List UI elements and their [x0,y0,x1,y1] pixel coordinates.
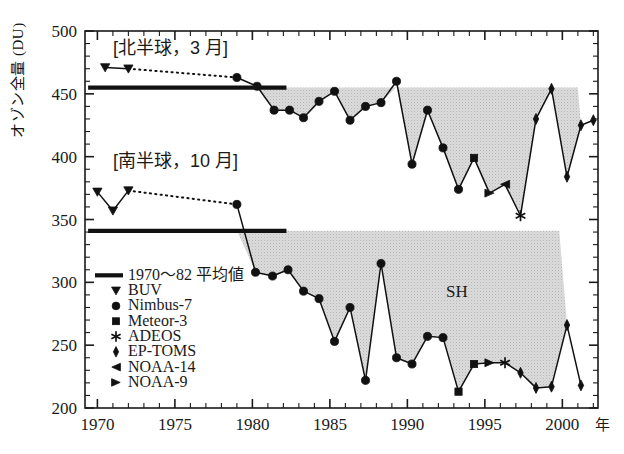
data-point [330,337,338,345]
legend-marker-star-icon [111,331,120,342]
legend-marker-diamond-icon [113,347,118,358]
y-tick-label: 300 [52,273,78,292]
data-point [408,360,416,368]
data-point [330,87,338,95]
data-point [454,185,462,193]
data-point [377,99,385,107]
x-tick-label: 1975 [158,415,192,434]
data-point [392,77,400,85]
data-point [315,97,323,105]
chart-canvas: 200250300350400450500 197019751980198519… [0,0,624,454]
data-point [470,360,477,367]
data-point [299,114,307,122]
data-point [439,334,447,342]
legend-item-noaa-9: NOAA-9 [112,373,188,390]
annotation-nh-title: [北半球，3 月] [113,38,228,58]
data-point [408,160,416,168]
data-point [299,287,307,295]
legend-item-197082: 1970〜82 平均値 [95,266,244,283]
legend-marker-square-icon [113,318,120,325]
legend-label: NOAA-9 [128,373,188,390]
data-point [361,102,369,110]
y-tick-label: 200 [52,399,78,418]
data-point [270,106,278,114]
legend-marker-triangle-left-icon [112,363,121,371]
x-axis-title: 年 [595,416,610,433]
data-point [233,200,241,208]
series-gap-connector [128,191,236,205]
data-point [233,73,241,81]
data-point [284,266,292,274]
legend-marker-triangle-right-icon [112,379,121,387]
legend-marker-triangle-down-icon [112,287,121,295]
y-tick-label: 400 [52,148,78,167]
x-tick-label: 1970 [80,415,114,434]
x-tick-label: 1990 [390,415,424,434]
data-point [346,303,354,311]
data-point [470,154,477,161]
x-tick-label: 1980 [235,415,269,434]
data-point [455,388,462,395]
y-tick-label: 450 [52,85,78,104]
series-gap-connector [128,69,236,78]
ozone-total-column-chart: オゾン全量 (DU) 200250300350400450500 1970197… [0,0,624,454]
y-tick-label: 500 [52,22,78,41]
x-tick-label: 2000 [545,415,579,434]
data-point [423,106,431,114]
data-point [251,268,259,276]
y-tick-label: 250 [52,336,78,355]
data-point [578,380,583,391]
y-axis-tick-labels: 200250300350400450500 [52,22,78,418]
x-axis-tick-labels: 1970197519801985199019952000 [80,415,579,434]
data-point [315,295,323,303]
data-point [268,272,276,280]
data-point [108,207,117,215]
data-point [392,354,400,362]
data-point [439,144,447,152]
legend-marker-circle-icon [112,302,120,310]
data-point [346,116,354,124]
data-point [286,106,294,114]
data-point [591,115,596,126]
data-point [423,332,431,340]
y-tick-label: 350 [52,211,78,230]
annotation-sh-title: [南半球，10 月] [113,151,238,171]
x-axis-title-text: 年 [595,416,610,433]
chart-legend: 1970〜82 平均値BUVNimbus-7Meteor-3ADEOSEP-TO… [95,266,244,390]
data-point [253,82,261,90]
data-point [377,259,385,267]
x-tick-label: 1995 [468,415,502,434]
y-axis-title: オゾン全量 (DU) [6,10,27,150]
x-tick-label: 1985 [313,415,347,434]
data-point [361,376,369,384]
deficit-shaded-regions [237,88,581,408]
annotation-sh: SH [446,282,468,301]
